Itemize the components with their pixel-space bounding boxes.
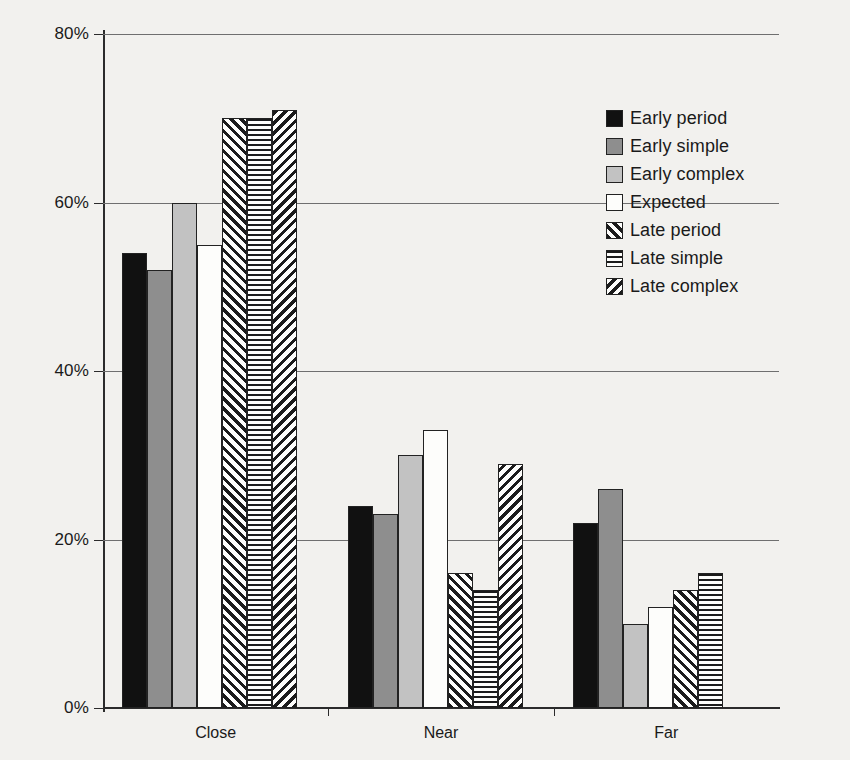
legend: Early periodEarly simpleEarly complexExp… <box>606 104 744 300</box>
bar <box>247 118 272 708</box>
bar-group-close <box>122 34 297 708</box>
bar <box>648 607 673 708</box>
legend-swatch-icon <box>606 278 623 295</box>
legend-item[interactable]: Early period <box>606 104 744 132</box>
bar <box>673 590 698 708</box>
y-tick-label: 60% <box>17 193 89 213</box>
y-tick-label: 20% <box>17 530 89 550</box>
bar-group-near <box>348 34 523 708</box>
bar <box>598 489 623 708</box>
bar <box>172 203 197 709</box>
legend-label: Early period <box>630 108 727 129</box>
x-tick-mark <box>554 707 555 716</box>
x-axis-label-near: Near <box>424 724 459 742</box>
bar <box>448 573 473 708</box>
legend-swatch-icon <box>606 222 623 239</box>
bar <box>272 110 297 708</box>
bar <box>573 523 598 708</box>
bar-chart: 0%20%40%60%80% CloseNearFarEarly periodE… <box>0 0 850 760</box>
legend-item[interactable]: Late complex <box>606 272 744 300</box>
bar <box>423 430 448 708</box>
y-tick-label: 0% <box>17 698 89 718</box>
bar <box>473 590 498 708</box>
bar <box>498 464 523 708</box>
legend-swatch-icon <box>606 166 623 183</box>
bar <box>373 514 398 708</box>
bar <box>698 573 723 708</box>
legend-label: Expected <box>630 192 706 213</box>
legend-label: Early simple <box>630 136 729 157</box>
x-tick-mark <box>328 707 329 716</box>
legend-item[interactable]: Early complex <box>606 160 744 188</box>
bar <box>147 270 172 708</box>
y-tick-mark <box>94 34 103 35</box>
bar <box>398 455 423 708</box>
legend-item[interactable]: Late period <box>606 216 744 244</box>
bar <box>348 506 373 708</box>
y-tick-mark <box>94 203 103 204</box>
y-tick-label: 40% <box>17 361 89 381</box>
legend-swatch-icon <box>606 194 623 211</box>
legend-swatch-icon <box>606 138 623 155</box>
x-axis-label-far: Far <box>654 724 678 742</box>
y-tick-mark <box>94 540 103 541</box>
y-tick-mark <box>94 708 103 709</box>
legend-swatch-icon <box>606 110 623 127</box>
x-axis-label-close: Close <box>195 724 236 742</box>
legend-item[interactable]: Late simple <box>606 244 744 272</box>
legend-label: Late complex <box>630 276 738 297</box>
bar <box>197 245 222 708</box>
legend-label: Late simple <box>630 248 723 269</box>
legend-item[interactable]: Early simple <box>606 132 744 160</box>
bar <box>623 624 648 708</box>
y-tick-mark <box>94 371 103 372</box>
bar <box>222 118 247 708</box>
legend-label: Early complex <box>630 164 744 185</box>
bar <box>122 253 147 708</box>
legend-swatch-icon <box>606 250 623 267</box>
legend-label: Late period <box>630 220 721 241</box>
y-tick-label: 80% <box>17 24 89 44</box>
legend-item[interactable]: Expected <box>606 188 744 216</box>
